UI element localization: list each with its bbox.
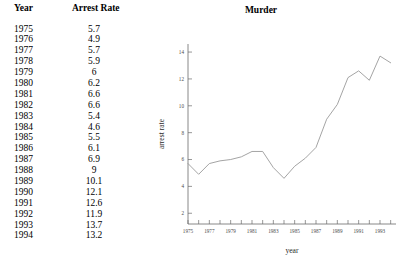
cell-year: 1983 [14,112,66,123]
x-tick-label: 1987 [311,228,322,234]
murder-chart-panel: Murder 2468101214 1975197719791981198319… [176,0,404,272]
x-axis-title: year [285,246,299,255]
x-tick-label: 1981 [247,228,258,234]
x-tick-label: 1977 [204,228,215,234]
x-tick-label: 1991 [353,228,364,234]
table-header-row: Year Arrest Rate [14,4,122,25]
y-tick-label: 12 [179,76,185,82]
x-tick-label: 1989 [332,228,343,234]
data-series-line [188,56,391,178]
line-chart: 2468101214 19751977197919811983198519871… [98,34,404,272]
x-tick-label: 1979 [225,228,236,234]
y-tick-label: 14 [179,49,185,55]
x-tick-label: 1983 [268,228,279,234]
y-axis: 2468101214 [179,44,192,224]
x-tick-label: 1993 [375,228,386,234]
cell-year: 1991 [14,199,66,210]
cell-year: 1992 [14,210,66,221]
y-tick-label: 2 [181,210,184,216]
y-tick-label: 6 [181,156,184,162]
cell-year: 1982 [14,101,66,112]
x-tick-label: 1975 [183,228,194,234]
column-header-arrest-rate: Arrest Rate [66,4,122,25]
cell-year: 1994 [14,231,66,242]
y-axis-title: arrest rate [157,118,166,149]
x-tick-label: 1985 [289,228,300,234]
y-tick-label: 4 [181,183,184,189]
x-axis: 1975197719791981198319851987198919911993 [183,220,396,234]
y-tick-label: 10 [179,103,185,109]
y-tick-label: 8 [181,130,184,136]
chart-title: Murder [176,5,346,15]
column-header-year: Year [14,4,66,25]
